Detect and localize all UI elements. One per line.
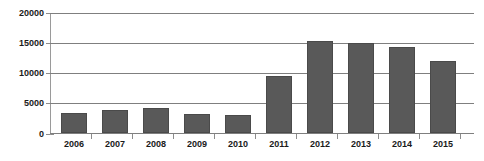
x-axis-tick-label-2012: 2012	[299, 140, 341, 149]
bar-2013	[348, 43, 374, 133]
y-axis-tick-label: 5000	[0, 99, 44, 108]
bar-chart: 20000 15000 10000 5000 0	[0, 0, 484, 161]
bar-2008	[143, 108, 169, 133]
x-axis-tick-mark	[419, 134, 420, 139]
x-axis-tick-mark	[214, 134, 215, 139]
x-axis-tick-mark	[378, 134, 379, 139]
x-axis-tick-label-2008: 2008	[135, 140, 177, 149]
x-axis-tick-mark	[132, 134, 133, 139]
y-axis-tick-label: 15000	[0, 39, 44, 48]
plot-area	[50, 13, 474, 134]
bar-2011	[266, 76, 292, 133]
y-axis-tick-label: 20000	[0, 9, 44, 18]
bar-2012	[307, 41, 333, 133]
x-axis-tick-mark	[337, 134, 338, 139]
y-axis-tick-label: 0	[0, 130, 44, 139]
x-axis-labels: 2006 2007 2008 2009 2010 2011 2012 2013 …	[50, 140, 474, 158]
y-axis-tick-label: 10000	[0, 69, 44, 78]
bar-2015	[430, 61, 456, 133]
x-axis-tick-mark	[91, 134, 92, 139]
bars-layer	[50, 13, 474, 134]
x-axis-tick-label-2010: 2010	[217, 140, 259, 149]
x-axis-tick-label-2009: 2009	[176, 140, 218, 149]
bar-2007	[102, 110, 128, 133]
x-axis-tick-label-2011: 2011	[258, 140, 300, 149]
x-axis-tick-label-2006: 2006	[53, 140, 95, 149]
x-axis-tick-label-2015: 2015	[422, 140, 464, 149]
x-axis-tick-label-2013: 2013	[340, 140, 382, 149]
bar-2014	[389, 47, 415, 133]
bar-2009	[184, 114, 210, 133]
x-axis-tick-label-2007: 2007	[94, 140, 136, 149]
x-axis-tick-label-2014: 2014	[381, 140, 423, 149]
bar-2006	[61, 113, 87, 133]
bar-2010	[225, 115, 251, 133]
x-axis-tick-mark	[296, 134, 297, 139]
x-axis-tick-mark	[255, 134, 256, 139]
x-axis-tick-mark	[173, 134, 174, 139]
x-axis-tick-mark	[460, 134, 461, 139]
